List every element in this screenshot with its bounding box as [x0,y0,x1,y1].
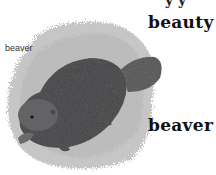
word-beaver: beaver [148,115,213,135]
partial-heading-text: y y [165,0,186,8]
word-beauty: beauty [148,12,214,32]
beaver-caption: beaver [5,43,33,53]
